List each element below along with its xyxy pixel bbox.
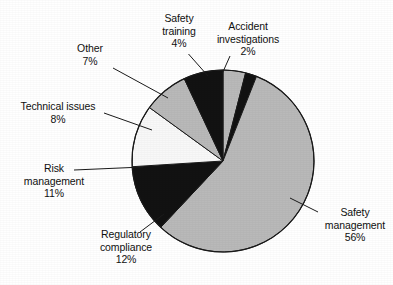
slice-label-risk-management: Risk management 11%: [14, 162, 94, 200]
slice-value: 56%: [318, 231, 392, 244]
slice-label-safety-training: Safety training 4%: [148, 12, 210, 50]
slice-label-text: compliance: [84, 241, 168, 254]
slice-value: 7%: [67, 55, 113, 68]
slice-label-other: Other 7%: [67, 42, 113, 67]
pie-chart: Safety training 4% Accident investigatio…: [0, 0, 393, 285]
slice-value: 11%: [14, 187, 94, 200]
pie-slice-group: [132, 70, 314, 252]
slice-value: 2%: [209, 45, 287, 58]
slice-label-text: investigations: [209, 33, 287, 46]
slice-label-text: Technical issues: [10, 100, 106, 113]
slice-label-regulatory-compliance: Regulatory compliance 12%: [84, 228, 168, 266]
slice-value: 8%: [10, 113, 106, 126]
slice-label-text: Accident: [209, 20, 287, 33]
slice-label-text: Other: [67, 42, 113, 55]
slice-label-text: Risk: [14, 162, 94, 175]
slice-label-text: Safety: [318, 206, 392, 219]
leader-line-safety-training: [189, 54, 209, 76]
slice-label-text: Regulatory: [84, 228, 168, 241]
slice-label-text: management: [318, 219, 392, 232]
slice-value: 4%: [148, 37, 210, 50]
slice-label-text: Safety: [148, 12, 210, 25]
slice-value: 12%: [84, 253, 168, 266]
leader-line-other: [113, 68, 168, 98]
slice-label-text: training: [148, 25, 210, 38]
slice-label-technical-issues: Technical issues 8%: [10, 100, 106, 125]
slice-label-accident-investigations: Accident investigations 2%: [209, 20, 287, 58]
slice-label-safety-management: Safety management 56%: [318, 206, 392, 244]
slice-label-text: management: [14, 175, 94, 188]
